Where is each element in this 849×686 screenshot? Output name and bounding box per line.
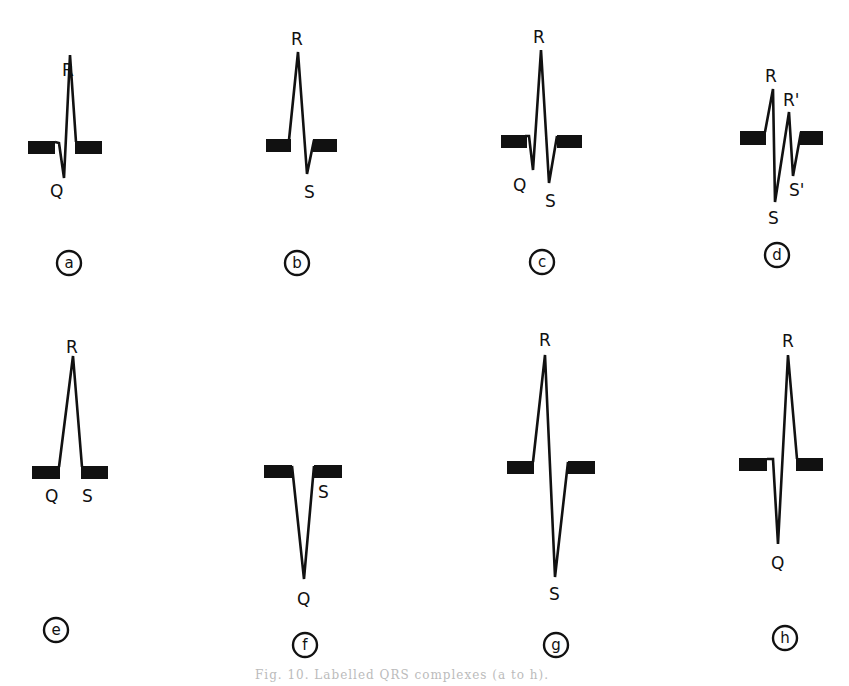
- baseline-left: [264, 465, 292, 478]
- baseline-right: [800, 131, 823, 145]
- wave-label-s: S: [318, 482, 329, 502]
- panel-label: b: [292, 254, 302, 272]
- qrs-waveform: [289, 52, 314, 174]
- qrs-waveform: [533, 355, 568, 577]
- panel-a: R Q a: [28, 55, 102, 275]
- wave-label-s: S: [768, 208, 779, 228]
- wave-label-r: R: [533, 27, 545, 47]
- baseline-right: [75, 141, 102, 154]
- panel-label: c: [538, 253, 546, 271]
- baseline-right: [81, 466, 108, 479]
- wave-label-r: R: [62, 60, 74, 80]
- wave-label-r: R: [66, 337, 78, 357]
- wave-label-q: Q: [513, 175, 526, 195]
- panel-label: g: [551, 636, 561, 654]
- wave-label-q: Q: [297, 589, 310, 609]
- baseline-left: [32, 466, 60, 479]
- baseline-left: [266, 139, 291, 152]
- baseline-left: [740, 131, 766, 145]
- panel-label: a: [64, 254, 73, 272]
- qrs-diagram: R Q a R S b R Q S c R R' S S' d: [0, 0, 849, 686]
- qrs-waveform: [59, 356, 82, 467]
- wave-label-s: S: [304, 182, 315, 202]
- baseline-left: [28, 141, 55, 154]
- baseline-left: [739, 458, 767, 471]
- figure-caption: Fig. 10. Labelled QRS complexes (a to h)…: [255, 668, 615, 686]
- baseline-left: [507, 461, 534, 474]
- wave-label-s: S: [82, 486, 93, 506]
- baseline-right: [557, 135, 582, 148]
- wave-label-q: Q: [45, 486, 58, 506]
- wave-label-r-prime: R': [783, 90, 800, 110]
- wave-label-s: S: [545, 191, 556, 211]
- wave-label-s: S: [549, 584, 560, 604]
- baseline-right: [568, 461, 595, 474]
- baseline-right: [313, 139, 337, 152]
- panel-b: R S b: [266, 29, 337, 275]
- panel-h: R Q h: [739, 331, 823, 650]
- baseline-right: [314, 465, 342, 478]
- panel-e: R Q S e: [32, 337, 108, 642]
- qrs-waveform: [525, 50, 557, 183]
- panel-g: R S g: [507, 330, 595, 657]
- panel-label: f: [302, 636, 308, 654]
- wave-label-r: R: [539, 330, 551, 350]
- wave-label-r: R: [765, 66, 777, 86]
- wave-label-q: Q: [50, 181, 63, 201]
- baseline-right: [796, 458, 823, 471]
- panel-d: R R' S S' d: [740, 66, 823, 267]
- wave-label-s-prime: S': [789, 180, 804, 200]
- panel-label: e: [51, 621, 60, 639]
- wave-label-q: Q: [771, 553, 784, 573]
- panel-label: h: [780, 629, 790, 647]
- qrs-waveform: [292, 466, 314, 579]
- baseline-left: [501, 135, 527, 148]
- panel-c: R Q S c: [501, 27, 582, 274]
- wave-label-r: R: [782, 331, 794, 351]
- panel-f: S Q f: [264, 465, 342, 657]
- qrs-waveform: [767, 355, 797, 544]
- wave-label-r: R: [291, 29, 303, 49]
- panel-label: d: [772, 246, 782, 264]
